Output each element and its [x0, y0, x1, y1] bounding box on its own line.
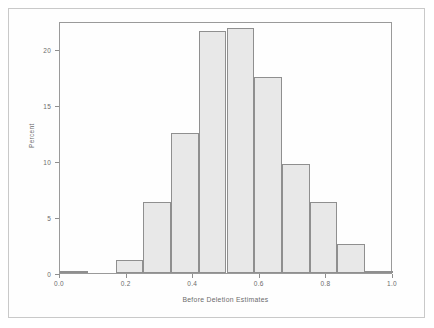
x-axis: 0.00.20.40.60.81.0 [0, 0, 434, 328]
x-tick-mark [325, 274, 326, 278]
x-tick-label: 1.0 [387, 280, 397, 287]
x-tick-label: 0.4 [187, 280, 197, 287]
x-tick-mark [59, 274, 60, 278]
x-axis-title: Before Deletion Estimates [59, 296, 392, 303]
x-tick-label: 0.2 [121, 280, 131, 287]
histogram-figure: 05101520 0.00.20.40.60.81.0 Percent Befo… [0, 0, 434, 328]
x-tick-label: 0.0 [54, 280, 64, 287]
x-tick-mark [259, 274, 260, 278]
x-tick-mark [392, 274, 393, 278]
y-axis-title: Percent [28, 123, 35, 148]
x-tick-label: 0.6 [254, 280, 264, 287]
x-tick-mark [192, 274, 193, 278]
x-tick-mark [126, 274, 127, 278]
x-tick-label: 0.8 [320, 280, 330, 287]
